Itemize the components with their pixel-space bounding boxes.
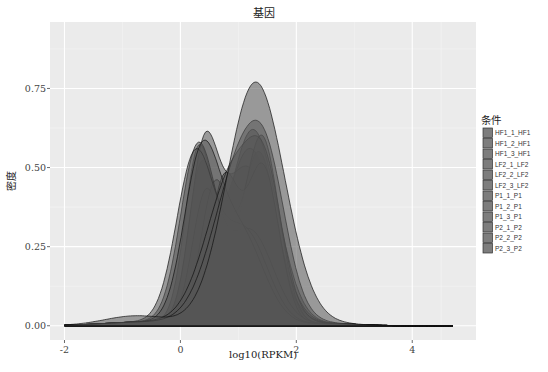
chart-title: 基因	[253, 7, 275, 20]
legend-swatch	[483, 202, 493, 212]
legend-item-label: LF2_1_LF2	[495, 161, 529, 169]
legend-item-label: P2_2_P2	[495, 234, 522, 242]
legend-swatch	[483, 160, 493, 170]
legend-item-label: P1_1_P1	[495, 192, 522, 200]
legend-item-label: P1_2_P1	[495, 203, 522, 211]
y-tick-label: 0.00	[25, 320, 46, 331]
legend-swatch	[483, 212, 493, 222]
y-tick-label: 0.25	[25, 241, 46, 252]
legend-swatch	[483, 128, 493, 138]
x-tick-label: 4	[409, 344, 415, 355]
legend-item-label: HF1_1_HF1	[495, 129, 531, 137]
y-tick-label: 0.50	[25, 162, 46, 173]
y-axis: 0.000.250.500.75	[25, 83, 50, 331]
legend-item-label: P2_3_P2	[495, 245, 522, 253]
legend-swatch	[483, 181, 493, 191]
legend-swatch	[483, 233, 493, 243]
y-axis-label: 密度	[5, 171, 17, 191]
legend-item-label: P1_3_P1	[495, 213, 522, 221]
y-tick-label: 0.75	[25, 83, 46, 94]
legend-item-label: LF2_3_LF2	[495, 182, 529, 190]
legend-title: 条件	[481, 114, 501, 126]
legend-swatch	[483, 139, 493, 149]
x-axis-label: log10(RPKM)	[229, 349, 297, 360]
x-tick-label: 0	[177, 344, 183, 355]
x-tick-label: -2	[60, 344, 69, 355]
legend-swatch	[483, 149, 493, 159]
density-chart: 基因 0.000.250.500.75 -2024 log10(RPKM) 密度…	[0, 0, 548, 372]
legend-swatch	[483, 223, 493, 233]
legend-item-label: P2_1_P2	[495, 224, 522, 232]
legend-swatch	[483, 170, 493, 180]
legend-swatch	[483, 244, 493, 254]
legend-item-label: HF1_2_HF1	[495, 140, 531, 148]
legend-item-label: LF2_2_LF2	[495, 171, 529, 179]
legend: 条件 HF1_1_HF1HF1_2_HF1HF1_3_HF1LF2_1_LF2L…	[481, 114, 531, 253]
legend-swatch	[483, 191, 493, 201]
legend-item-label: HF1_3_HF1	[495, 150, 531, 158]
